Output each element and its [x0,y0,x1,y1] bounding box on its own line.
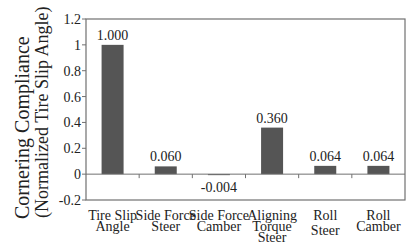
x-tick-label-line: Steer [311,223,340,238]
bar [314,166,336,174]
plot-border [86,19,405,200]
data-label: 0.064 [363,149,395,164]
y-tick-label: 0.4 [64,115,82,130]
bar [102,45,124,174]
x-tick-label: AligningTorqueSteer [247,208,297,245]
y-tick-label: -0.2 [59,193,81,208]
y-axis-title: Cornering Compliance (Normalized Tire Sl… [11,7,53,219]
data-label: 1.000 [97,28,129,43]
x-tick-label-line: Roll [313,208,337,223]
y-axis-title-line-1: Cornering Compliance [11,36,34,219]
data-label: -0.004 [201,180,237,195]
bars [102,45,390,175]
value-labels: 1.0000.060-0.0040.3600.0640.064 [97,28,394,195]
bar [261,128,283,175]
x-axis: Tire SlipAngleSide ForceSteerSide ForceC… [88,174,401,245]
y-axis: -0.200.20.40.60.811.2 [59,12,86,208]
x-tick-label: Side ForceCamber [189,208,249,234]
x-tick-label: Tire SlipAngle [88,208,137,234]
data-label: 0.064 [310,149,342,164]
bar [155,166,177,174]
data-label: 0.360 [256,111,288,126]
x-tick-label-line: Angle [95,219,129,234]
x-tick-label-line: Camber [356,219,401,234]
y-axis-title-line-2: (Normalized Tire Slip Angle) [32,7,53,218]
x-tick-label-line: Camber [197,219,242,234]
x-tick-label-line: Steer [258,230,287,245]
x-tick-label: RollSteer [311,208,340,238]
plot-frame [86,19,405,200]
bar-chart: Cornering Compliance (Normalized Tire Sl… [0,0,416,252]
bar [367,166,389,174]
y-tick-label: 0.6 [64,90,82,105]
x-tick-label-line: Steer [151,219,180,234]
y-tick-label: 0 [74,167,81,182]
y-tick-label: 0.8 [64,64,82,79]
data-label: 0.060 [150,149,182,164]
y-tick-label: 1.2 [64,12,82,27]
y-tick-label: 1 [74,38,81,53]
y-tick-label: 0.2 [64,141,82,156]
x-tick-label: RollCamber [356,208,401,234]
x-tick-label: Side ForceSteer [136,208,196,234]
